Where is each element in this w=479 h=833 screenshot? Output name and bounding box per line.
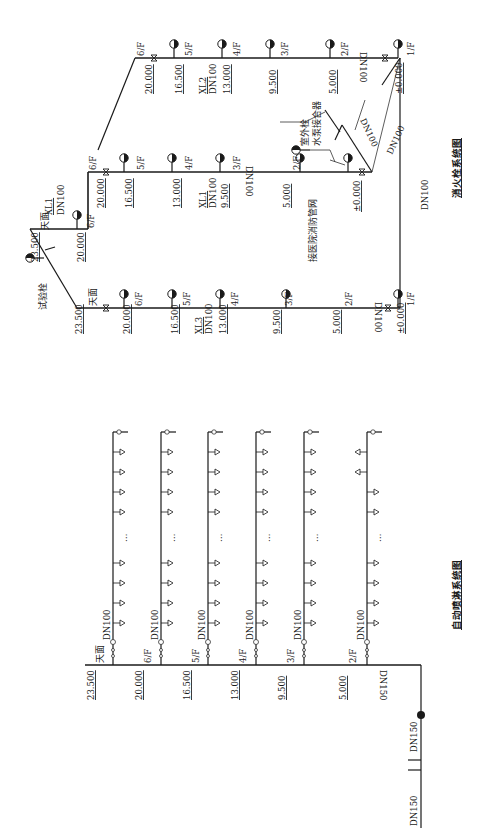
xl3-3f-elev: 9.500 xyxy=(272,310,282,334)
xl2-4f-label: 4/F xyxy=(232,42,242,56)
xl3-roof-elev: 23.500 xyxy=(74,304,84,334)
xl3-1f-elev: ±0.000 xyxy=(396,303,406,334)
xl1-5f-elev: 16.500 xyxy=(124,178,134,208)
sprinkler-2f-elev: 5.000 xyxy=(338,676,348,700)
main-pipe-label: DN100 xyxy=(420,180,430,210)
xl2-id: XL2 xyxy=(198,77,208,94)
xl2-2f-label: 2/F xyxy=(340,42,350,56)
roof-level-6f: 6/F xyxy=(86,214,96,228)
sprinkler-5f-label: 5/F xyxy=(191,649,201,663)
sprinkler-4f-elev: 13.000 xyxy=(230,670,240,700)
branch-5f xyxy=(208,430,223,665)
roof-riser-id: XL1 xyxy=(44,198,54,215)
ellipsis-6f: … xyxy=(167,534,177,543)
branch-roof xyxy=(113,430,128,665)
sprinkler-system-diagram: … … … … … … DN100 DN100 DN100 DN100 DN10… xyxy=(85,430,462,828)
branch-3f xyxy=(304,430,319,665)
ellipsis-5f: … xyxy=(214,534,224,543)
xl1-6f-label: 6/F xyxy=(88,156,98,170)
xl3-bottom-pipe: DN100 xyxy=(373,302,383,332)
xl3-1f-label: 1/F xyxy=(406,292,416,306)
xl2-5f-elev: 16.500 xyxy=(174,64,184,94)
sprinkler-3f-elev: 9.500 xyxy=(277,676,287,700)
xl1-4f-label: 4/F xyxy=(184,156,194,170)
xl1-size: DN100 xyxy=(208,178,218,208)
sprinkler-labels: … … … … … … DN100 DN100 DN100 DN100 DN10… xyxy=(86,534,462,827)
xl1-5f-label: 5/F xyxy=(136,156,146,170)
xl1-id: XL1 xyxy=(198,191,208,208)
ellipsis-4f: … xyxy=(262,534,272,543)
branch-size-4f: DN100 xyxy=(245,610,255,640)
pump-adapter-label: 水泵接合器 xyxy=(311,101,322,146)
branch-size-6f: DN100 xyxy=(150,610,160,640)
xl3-4f-label: 4/F xyxy=(230,292,240,306)
riser-size-label: DN150 xyxy=(378,670,388,700)
xl3-4f-elev: 13.000 xyxy=(218,304,228,334)
branch-size-roof: DN100 xyxy=(102,610,112,640)
sprinkler-3f-label: 3/F xyxy=(286,649,296,663)
connector-pipe-1: DN100 xyxy=(358,117,380,149)
xl2-size: DN100 xyxy=(208,64,218,94)
sprinkler-6f-label: 6/F xyxy=(143,649,153,663)
connect-network-label: 接医院消防管网 xyxy=(307,199,318,262)
xl3-6f-label: 6/F xyxy=(134,292,144,306)
xl3-5f-label: 5/F xyxy=(182,292,192,306)
hydrant-system-diagram: 23.500 天面 20.000 6/F 16.500 5/F XL3 DN10… xyxy=(26,40,462,334)
branch-4f xyxy=(256,430,271,665)
xl3-3f-label: 3/F xyxy=(284,292,294,306)
hydrant-system-title: 消火栓系统图 xyxy=(451,138,462,198)
roof-level-elev: 20.000 xyxy=(76,232,86,262)
sprinkler-4f-label: 4/F xyxy=(238,649,248,663)
xl1-2f-label: 2/F xyxy=(292,156,302,170)
xl2-1f-elev: ±0.000 xyxy=(394,63,404,94)
xl3-2f-elev: 5.000 xyxy=(332,310,342,334)
xl3-2f-label: 2/F xyxy=(344,292,354,306)
xl2-3f-label: 3/F xyxy=(280,42,290,56)
sprinkler-2f-label: 2/F xyxy=(348,649,358,663)
roof-riser-size: DN100 xyxy=(56,185,66,215)
xl2-1f-label: 1/F xyxy=(406,42,416,56)
ellipsis-2f: … xyxy=(373,534,383,543)
branch-2f xyxy=(367,430,382,665)
ellipsis-3f: … xyxy=(310,534,320,543)
xl2-bottom-pipe: DN100 xyxy=(358,52,368,82)
xl2-6f-label: 6/F xyxy=(136,42,146,56)
ellipsis-roof: … xyxy=(119,534,129,543)
roof-elev: 23.500 xyxy=(30,232,40,262)
sprinkler-roof-label: 天面 xyxy=(95,645,105,663)
xl3-5f-elev: 16.500 xyxy=(170,304,180,334)
inlet-size-1: DN150 xyxy=(409,722,419,752)
xl1-3f-elev: 9.500 xyxy=(220,184,230,208)
xl1-bottom-pipe: DN100 xyxy=(244,166,254,196)
connector-pipe-2: DN100 xyxy=(385,124,407,156)
xl1-6f-elev: 20.000 xyxy=(96,178,106,208)
sprinkler-system-title: 自动喷淋系统图 xyxy=(451,560,462,630)
outdoor-hydrant-label: 室外栓 xyxy=(299,119,310,146)
xl2-3f-elev: 9.500 xyxy=(268,70,278,94)
xl1-2f-elev: 5.000 xyxy=(282,184,292,208)
branch-size-5f: DN100 xyxy=(197,610,207,640)
xl2-4f-elev: 13.000 xyxy=(222,64,232,94)
branch-6f xyxy=(161,430,176,665)
xl2-6f-elev: 20.000 xyxy=(144,64,154,94)
xl3-size: DN100 xyxy=(204,304,214,334)
sprinkler-6f-elev: 20.000 xyxy=(134,670,144,700)
xl2-2f-elev: 5.000 xyxy=(328,70,338,94)
inlet-size-2: DN150 xyxy=(409,796,419,826)
xl1-3f-label: 3/F xyxy=(232,156,242,170)
xl2-5f-label: 5/F xyxy=(184,42,194,56)
xl1-1f-elev: ±0.000 xyxy=(352,181,362,212)
xl3-id: XL3 xyxy=(194,317,204,334)
xl3-roof-label: 天面 xyxy=(88,288,98,306)
xl3-6f-elev: 20.000 xyxy=(122,304,132,334)
test-hydrant-label: 试验栓 xyxy=(37,283,48,310)
branch-size-2f: DN100 xyxy=(356,610,366,640)
branch-size-3f: DN100 xyxy=(293,610,303,640)
sprinkler-5f-elev: 16.500 xyxy=(182,670,192,700)
xl1-4f-elev: 13.000 xyxy=(172,178,182,208)
sprinkler-roof-elev: 23.500 xyxy=(86,670,96,700)
